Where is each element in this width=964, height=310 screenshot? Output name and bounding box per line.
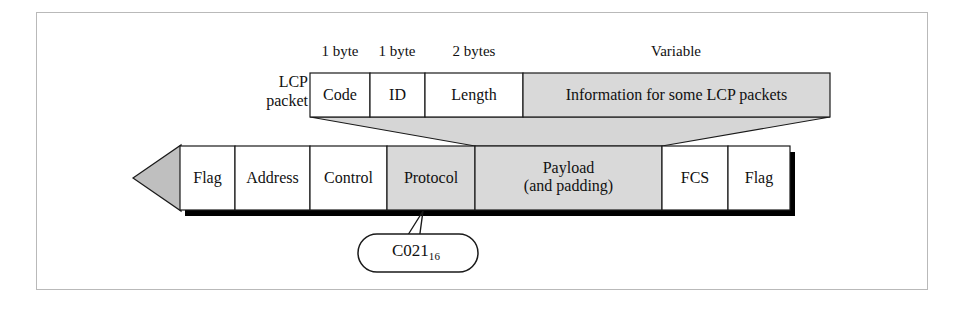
size-label-information: Variable	[616, 42, 736, 60]
direction-arrow-icon	[133, 145, 181, 211]
lcp-field-code-label: Code	[310, 85, 370, 104]
ppp-field-payload-line2: (and padding)	[475, 177, 662, 195]
lcp-packet-row-label-line1: LCP	[236, 72, 308, 91]
ppp-field-protocol-label: Protocol	[387, 168, 475, 187]
size-label-length: 2 bytes	[429, 42, 519, 60]
protocol-callout-subscript: 16	[429, 250, 440, 262]
protocol-callout-label: C02116	[356, 241, 476, 262]
ppp-field-address-label: Address	[235, 168, 310, 187]
ppp-field-control-label: Control	[310, 168, 387, 187]
lcp-field-length-label: Length	[425, 85, 523, 104]
protocol-callout-value: C021	[392, 241, 429, 260]
figure-ppp-lcp-frame: 1 byte 1 byte 2 bytes Variable LCP packe…	[0, 0, 964, 310]
lcp-field-information-label: Information for some LCP packets	[523, 85, 830, 104]
size-label-id: 1 byte	[357, 42, 437, 60]
ppp-field-flag2-label: Flag	[728, 168, 790, 187]
lcp-field-id-label: ID	[370, 85, 425, 104]
ppp-field-payload-label: Payload (and padding)	[475, 159, 662, 195]
ppp-field-payload-line1: Payload	[475, 159, 662, 177]
ppp-field-fcs-label: FCS	[662, 168, 728, 187]
ppp-field-flag1-label: Flag	[180, 168, 235, 187]
lcp-packet-row-label: LCP packet	[236, 72, 308, 110]
connector-trapezoid	[310, 117, 830, 146]
lcp-packet-row-label-line2: packet	[236, 91, 308, 110]
